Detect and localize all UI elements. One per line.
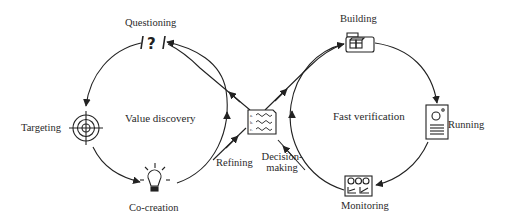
arc-targeting-to-cocreation <box>93 147 140 182</box>
arc-building-to-running <box>375 43 437 103</box>
left-loop-title: Value discovery <box>125 113 196 125</box>
line-refining-arrow <box>226 136 238 148</box>
label-monitoring: Monitoring <box>341 200 389 211</box>
line-doc-to-building-arrow <box>275 89 287 101</box>
label-decision-making: Decision- making <box>259 151 305 173</box>
label-decision-line1: Decision- <box>259 151 305 162</box>
label-building: Building <box>340 13 377 24</box>
label-targeting: Targeting <box>21 122 61 133</box>
svg-text:?: ? <box>147 35 156 53</box>
label-questioning: Questioning <box>125 17 176 28</box>
label-co-creation: Co-creation <box>129 202 179 213</box>
doc-item-a: a. <box>250 113 253 118</box>
arc-running-to-monitoring <box>376 142 428 185</box>
label-running: Running <box>448 119 484 130</box>
question-mark-icon: ? <box>141 35 165 53</box>
lean-loop-diagram: ? a. b. c. <box>0 0 505 224</box>
target-icon <box>69 111 103 145</box>
label-decision-line2: making <box>259 162 305 173</box>
arc-questioning-to-targeting <box>86 43 141 106</box>
server-icon <box>426 105 448 139</box>
right-loop-title: Fast verification <box>333 111 405 123</box>
doc-item-c: c. <box>250 127 253 132</box>
label-refining: Refining <box>216 157 253 168</box>
doc-item-b: b. <box>250 120 253 125</box>
line-doc-to-building <box>265 44 344 110</box>
line-doc-to-questioning-arrow <box>229 92 240 102</box>
dashboard-icon <box>345 176 372 196</box>
folder-blocks-icon <box>346 33 374 52</box>
lightbulb-icon <box>140 163 170 191</box>
